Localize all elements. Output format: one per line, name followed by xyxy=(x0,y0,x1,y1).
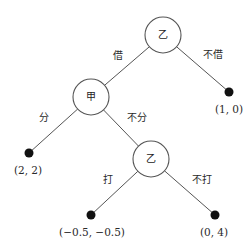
payoff-not-fight: (0, 4) xyxy=(200,227,228,238)
terminal-node xyxy=(25,149,34,158)
edge-label-not-fight: 不打 xyxy=(192,175,212,185)
terminal-node xyxy=(225,88,234,97)
node-label-root: 乙 xyxy=(158,30,168,40)
payoff-not-borrow: (1, 0) xyxy=(215,104,243,115)
terminal-node xyxy=(211,211,220,220)
edge-label-borrow: 借 xyxy=(113,51,123,61)
game-tree-lines xyxy=(0,0,251,251)
edge-line xyxy=(105,47,150,86)
edge-line xyxy=(91,171,138,215)
game-tree-diagram: 乙 甲 乙 借 不借 分 不分 打 不打 (1, 0) (2, 2) (−0.5… xyxy=(0,0,251,251)
edge-label-fight: 打 xyxy=(103,175,113,185)
payoff-share: (2, 2) xyxy=(14,165,42,176)
payoff-fight: (−0.5, −0.5) xyxy=(59,227,125,238)
edge-label-not-share: 不分 xyxy=(127,113,147,123)
edge-label-not-borrow: 不借 xyxy=(203,50,223,60)
node-label-jia: 甲 xyxy=(86,92,96,102)
edge-label-share: 分 xyxy=(39,113,49,123)
node-label-yi2: 乙 xyxy=(146,154,156,164)
edge-line xyxy=(29,109,78,153)
terminal-node xyxy=(87,211,96,220)
